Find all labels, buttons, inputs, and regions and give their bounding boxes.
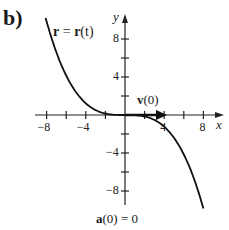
curve-label: r = r(t) (53, 24, 94, 40)
y-tick-label: 4 (113, 69, 119, 84)
curve-label-arg: (t) (80, 24, 93, 39)
y-axis-title: y (113, 9, 119, 25)
y-tick-label: 8 (113, 31, 119, 46)
panel-label: b) (3, 5, 23, 31)
velocity-arrowhead-icon (156, 110, 167, 120)
velocity-vector (125, 110, 167, 120)
axes (35, 14, 224, 205)
x-tick-label: 4 (160, 120, 166, 135)
velocity-label: v(0) (137, 92, 159, 108)
velocity-label-arg: (0) (144, 92, 159, 107)
y-tick-label: −4 (106, 145, 119, 160)
curve-label-eq: = (59, 24, 74, 39)
x-tick-label: −8 (38, 120, 51, 135)
x-axis-title: x (216, 117, 222, 133)
y-axis-arrow-icon (122, 14, 128, 23)
acceleration-label-rest: (0) = 0 (103, 211, 139, 226)
x-tick-label: −4 (77, 120, 90, 135)
acceleration-label: a(0) = 0 (96, 211, 138, 227)
y-tick-label: −8 (106, 183, 119, 198)
x-tick-label: 8 (199, 120, 205, 135)
